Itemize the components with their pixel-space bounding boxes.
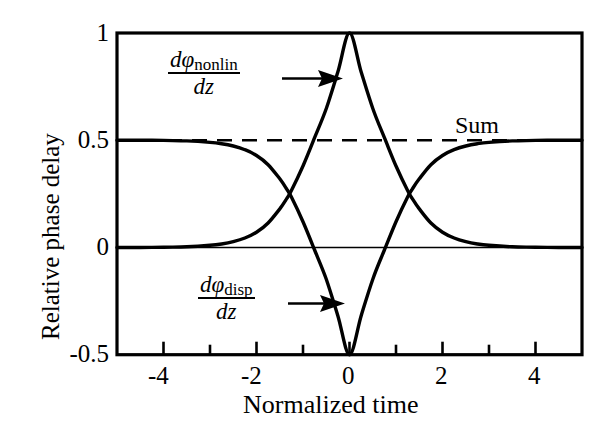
y-tick-label-1: 1 [97,20,110,45]
nonlin-phi-symbol: φ [182,47,195,72]
x-axis-title: Normalized time [243,392,418,418]
y-tick-label-minus0point5: -0.5 [69,341,109,366]
x-tick-label-minus2: -2 [241,363,262,388]
annotation-disp-fraction: dφdisp dz [198,273,255,324]
sum-annotation-label: Sum [455,113,499,137]
y-tick-label-0point5: 0.5 [78,127,109,152]
annotation-nonlin-fraction: dφnonlin dz [168,48,240,99]
x-tick-label-4: 4 [528,363,541,388]
annotation-nonlin-numerator: dφnonlin [168,48,240,74]
nonlin-subscript: nonlin [194,55,237,74]
disp-subscript: disp [224,280,252,299]
x-tick-label-0: 0 [342,363,355,388]
annotation-disp-denominator: dz [198,299,255,323]
y-axis-ticks [117,140,130,247]
figure-container: 1 0.5 0 -0.5 -4 -2 0 2 4 Relative phase … [0,0,614,431]
annotation-disp-numerator: dφdisp [198,273,255,299]
x-axis-major-ticks [164,342,536,355]
disp-d-symbol: d [200,272,212,297]
x-tick-label-minus4: -4 [148,363,169,388]
disp-phi-symbol: φ [212,272,225,297]
x-tick-label-2: 2 [435,363,448,388]
annotation-nonlin-denominator: dz [168,74,240,98]
y-tick-label-0: 0 [97,234,110,259]
y-axis-title: Relative phase delay [38,133,63,340]
nonlin-d-symbol: d [170,47,182,72]
